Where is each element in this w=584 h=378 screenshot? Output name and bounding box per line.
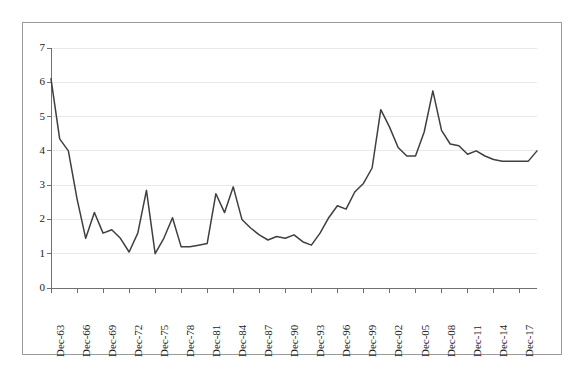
x-tick-marks-group (51, 288, 520, 293)
x-axis-tick-label: Dec-72 (133, 325, 144, 357)
x-axis-tick-label: Dec-14 (498, 325, 509, 357)
x-axis-tick-label: Dec-75 (159, 325, 170, 357)
x-axis-tick-label: Dec-81 (211, 325, 222, 357)
y-axis-tick-label: 4 (29, 145, 45, 156)
x-axis-tick-label: Dec-78 (185, 325, 196, 357)
x-axis-tick-label: Dec-84 (237, 325, 248, 357)
x-axis-tick-label: Dec-05 (420, 325, 431, 357)
x-axis-tick-label: Dec-11 (472, 325, 483, 357)
y-axis-tick-label: 7 (29, 42, 45, 53)
y-axis-tick-label: 2 (29, 213, 45, 224)
x-axis-tick-label: Dec-08 (446, 325, 457, 357)
plot-area (51, 48, 537, 288)
data-series-line (51, 79, 537, 254)
y-axis-tick-label: 0 (29, 282, 45, 293)
y-axis-tick-label: 5 (29, 111, 45, 122)
x-axis-labels: Dec-63Dec-66Dec-69Dec-72Dec-75Dec-78Dec-… (51, 295, 537, 370)
x-axis-tick-label: Dec-02 (393, 325, 404, 357)
x-axis-tick-label: Dec-96 (341, 325, 352, 357)
gridlines-group (47, 48, 537, 288)
x-axis-tick-label: Dec-99 (367, 325, 378, 357)
line-chart-svg (51, 48, 537, 288)
chart-figure: 01234567 Dec-63Dec-66Dec-69Dec-72Dec-75D… (22, 22, 562, 355)
y-axis-tick-label: 3 (29, 179, 45, 190)
x-axis-tick-label: Dec-63 (55, 325, 66, 357)
x-axis-tick-label: Dec-17 (524, 325, 535, 357)
x-axis-tick-label: Dec-69 (107, 325, 118, 357)
x-axis-tick-label: Dec-87 (263, 325, 274, 357)
y-axis-tick-label: 1 (29, 248, 45, 259)
x-axis-tick-label: Dec-90 (289, 325, 300, 357)
x-axis-tick-label: Dec-93 (315, 325, 326, 357)
y-axis-tick-label: 6 (29, 76, 45, 87)
x-axis-tick-label: Dec-66 (81, 325, 92, 357)
